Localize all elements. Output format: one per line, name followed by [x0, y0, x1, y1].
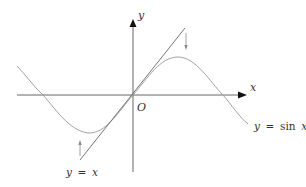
identity-label-lhs: y — [65, 166, 73, 178]
sine-curve-label: y = sin x — [253, 120, 306, 132]
svg-text:y = x: y = x — [65, 166, 98, 178]
origin-label: O — [137, 101, 146, 114]
y-axis-label: y — [137, 9, 145, 22]
sine-label-lhs: y — [253, 120, 261, 132]
diagram-canvas: y x O y = sin x y = x — [0, 0, 306, 187]
sine-label-eq: = — [266, 120, 275, 132]
svg-text:y = sin: y = sin x — [253, 120, 306, 132]
identity-line — [80, 28, 185, 160]
sine-tangent-diagram: y x O y = sin x y = x — [0, 0, 306, 187]
sine-label-fn: sin — [280, 120, 296, 132]
identity-label-eq: = — [78, 166, 87, 178]
x-axis-arrowhead-icon — [238, 92, 247, 99]
down-arrow-icon — [184, 33, 187, 50]
x-axis-label: x — [250, 81, 257, 94]
y-axis-arrowhead-icon — [130, 19, 137, 27]
identity-line-label: y = x — [65, 166, 98, 178]
up-arrow-icon — [78, 140, 81, 156]
sine-label-var: x — [301, 120, 306, 132]
identity-label-var: x — [92, 166, 98, 178]
